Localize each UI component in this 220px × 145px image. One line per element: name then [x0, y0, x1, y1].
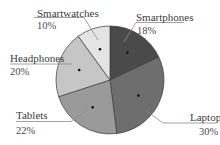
- dot-headphones: [78, 69, 81, 72]
- label-smartwatches: Smartwatches: [37, 7, 99, 19]
- pct-tablets: 22%: [16, 125, 35, 137]
- dot-tablets: [91, 106, 94, 109]
- dot-smartphones: [126, 51, 129, 54]
- pie-slices: [56, 26, 164, 134]
- pct-smartphones: 18%: [137, 25, 156, 37]
- label-tablets: Tablets: [16, 109, 48, 121]
- label-laptop: Laptop: [190, 111, 220, 123]
- dot-smartwatches: [99, 48, 102, 51]
- label-smartphones: Smartphones: [136, 11, 193, 23]
- dot-laptop: [137, 94, 140, 97]
- pct-laptop: 30%: [199, 126, 218, 138]
- pct-smartwatches: 10%: [37, 20, 56, 32]
- label-headphones: Headphones: [10, 52, 64, 64]
- pct-headphones: 20%: [10, 66, 29, 78]
